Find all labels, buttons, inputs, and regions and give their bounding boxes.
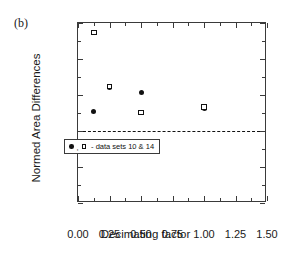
y-tick-major-right <box>260 59 265 60</box>
x-tick-minor <box>251 198 252 201</box>
y-tick-major-right <box>260 167 265 168</box>
data-point-open-square <box>107 84 113 90</box>
x-tick-minor-top <box>125 23 126 26</box>
y-tick-major <box>78 59 83 60</box>
legend-label: - data sets 10 & 14 <box>88 142 154 151</box>
y-tick-major <box>78 95 83 96</box>
y-tick-major <box>78 167 83 168</box>
y-tick-minor <box>78 77 81 78</box>
figure-panel-b: (b) 0.00.51.01.52.02.50.000.250.500.751.… <box>0 0 291 258</box>
x-tick-minor-top <box>220 23 221 26</box>
x-tick-minor-top <box>188 23 189 26</box>
y-tick-minor <box>78 41 81 42</box>
x-tick-major <box>204 196 205 201</box>
legend-open-square-icon <box>82 144 87 149</box>
x-tick-major <box>78 196 79 201</box>
x-tick-major <box>110 196 111 201</box>
x-tick-minor <box>188 198 189 201</box>
y-tick-major-right <box>260 23 265 24</box>
data-point-open-square <box>91 30 97 36</box>
x-tick-minor <box>94 198 95 201</box>
x-tick-major <box>173 196 174 201</box>
x-tick-major <box>141 196 142 201</box>
x-tick-major-top <box>78 23 79 28</box>
data-point-open-square <box>138 110 144 116</box>
plot-area: 0.00.51.01.52.02.50.000.250.500.751.001.… <box>77 22 266 202</box>
y-tick-minor-right <box>262 185 265 186</box>
y-tick-major-right <box>260 95 265 96</box>
data-point-filled-circle <box>139 90 144 95</box>
y-tick-major-right <box>260 203 265 204</box>
x-tick-major-top <box>204 23 205 28</box>
x-tick-major-top <box>267 23 268 28</box>
x-axis-title: Decimating factor <box>0 228 291 240</box>
x-tick-minor <box>220 198 221 201</box>
y-tick-minor-right <box>262 149 265 150</box>
x-tick-major <box>267 196 268 201</box>
reference-line-y-1 <box>78 131 265 132</box>
y-tick-minor <box>78 113 81 114</box>
legend-box: , - data sets 10 & 14 <box>64 139 160 154</box>
x-tick-major-top <box>173 23 174 28</box>
x-tick-minor-top <box>251 23 252 26</box>
y-tick-major <box>78 203 83 204</box>
y-axis-title: Normed Area Differences <box>30 28 42 208</box>
x-tick-minor-top <box>157 23 158 26</box>
legend-comma: , <box>76 144 79 152</box>
y-tick-minor-right <box>262 77 265 78</box>
x-tick-major-top <box>141 23 142 28</box>
x-tick-major <box>236 196 237 201</box>
x-tick-minor <box>157 198 158 201</box>
x-tick-major-top <box>236 23 237 28</box>
x-tick-major-top <box>110 23 111 28</box>
y-tick-minor <box>78 185 81 186</box>
y-tick-major-right <box>260 131 265 132</box>
y-tick-major <box>78 131 83 132</box>
x-tick-minor <box>125 198 126 201</box>
x-tick-minor-top <box>94 23 95 26</box>
panel-label: (b) <box>14 16 28 31</box>
y-tick-minor-right <box>262 41 265 42</box>
legend-filled-circle-icon <box>69 144 74 149</box>
y-tick-minor-right <box>262 113 265 114</box>
data-point-open-square <box>201 104 207 110</box>
data-point-filled-circle <box>91 109 96 114</box>
